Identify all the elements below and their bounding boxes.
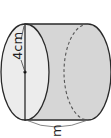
length-label: m	[49, 124, 64, 137]
cylinder-diagram: 4cm m	[0, 0, 111, 138]
radius-label: 4cm	[10, 32, 25, 60]
